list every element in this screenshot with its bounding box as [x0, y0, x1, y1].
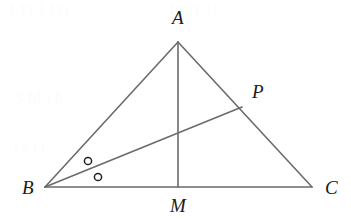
vertex-label-layer: ABCMP: [22, 7, 338, 216]
vertex-label-b: B: [22, 177, 34, 198]
vertex-label-c: C: [325, 177, 338, 198]
angle-marker-layer: [84, 157, 101, 180]
vertex-label-a: A: [170, 7, 184, 28]
side-AB: [45, 42, 178, 187]
vertex-label-p: P: [251, 81, 264, 102]
figure-canvas: ABCMP: [0, 0, 351, 220]
angle-marker-abp: [84, 157, 91, 164]
geometry-figure: 1 11 1 11111 11 11S hf j hl h l j ABCMP: [0, 0, 351, 220]
side-AC: [178, 42, 312, 187]
cevian-BP: [45, 107, 242, 187]
vertex-label-m: M: [169, 195, 187, 216]
angle-marker-pbm: [94, 173, 101, 180]
segment-layer: [45, 42, 312, 187]
